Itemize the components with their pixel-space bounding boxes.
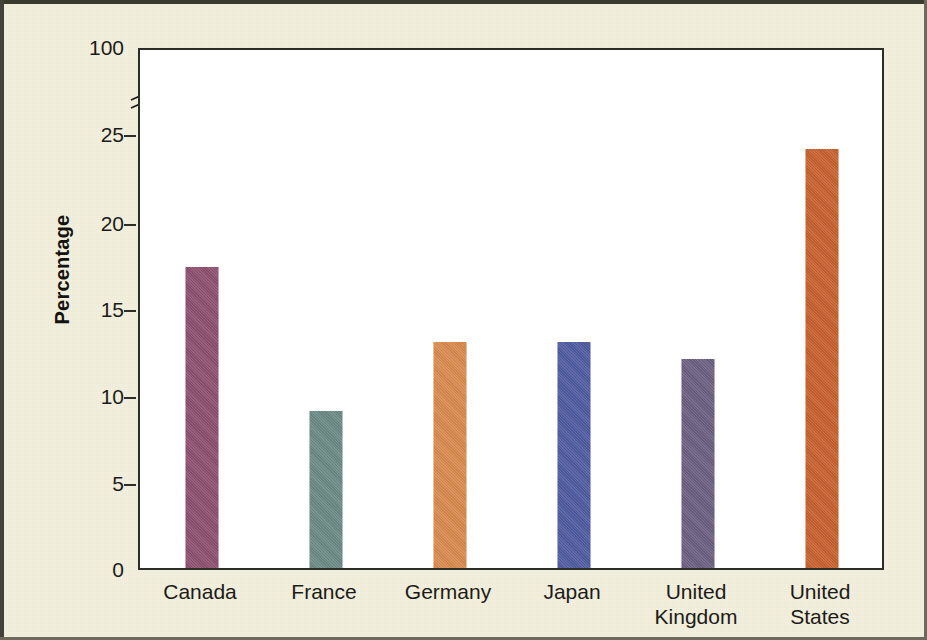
bars-group xyxy=(140,50,882,568)
y-tick-label-15: 15 xyxy=(54,299,124,320)
y-tick-label-20: 20 xyxy=(54,213,124,234)
y-tick-label-0: 0 xyxy=(54,559,124,580)
x-label-line2: States xyxy=(745,605,895,630)
figure-panel: Percentage 100 25 20 15 10 5 0 xyxy=(0,0,927,640)
bar-germany[interactable] xyxy=(434,342,467,568)
y-tick-label-100: 100 xyxy=(54,37,124,58)
bar-japan[interactable] xyxy=(558,342,591,568)
bar-slot-united-kingdom xyxy=(636,50,760,568)
y-tick-mark-5 xyxy=(124,484,136,486)
bar-slot-canada xyxy=(140,50,264,568)
bar-canada[interactable] xyxy=(186,267,219,568)
plot-area xyxy=(138,48,884,570)
bar-slot-germany xyxy=(388,50,512,568)
y-tick-label-5: 5 xyxy=(54,473,124,494)
y-tick-mark-15 xyxy=(124,310,136,312)
frame-border-left xyxy=(0,0,4,640)
y-tick-label-10: 10 xyxy=(54,386,124,407)
bar-france[interactable] xyxy=(310,411,343,568)
bar-united-states[interactable] xyxy=(806,149,839,568)
y-tick-mark-10 xyxy=(124,397,136,399)
y-tick-label-25: 25 xyxy=(54,124,124,145)
x-tick-label-united-states: United States xyxy=(745,580,895,630)
y-tick-mark-25 xyxy=(124,135,136,137)
bar-slot-japan xyxy=(512,50,636,568)
bar-united-kingdom[interactable] xyxy=(682,359,715,568)
bar-slot-france xyxy=(264,50,388,568)
bar-slot-united-states xyxy=(760,50,884,568)
frame-border-top xyxy=(0,0,927,4)
x-label-line1: United xyxy=(745,580,895,605)
y-tick-mark-20 xyxy=(124,224,136,226)
